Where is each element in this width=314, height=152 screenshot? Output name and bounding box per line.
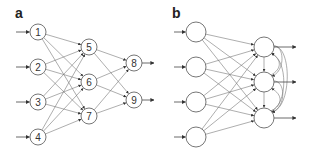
connection-arrow xyxy=(46,104,81,114)
connection-arrow xyxy=(46,34,81,44)
connection-arrow xyxy=(43,88,83,131)
connection-arrow xyxy=(206,121,254,134)
connection-arrow xyxy=(206,34,254,45)
node-9: 9 xyxy=(126,92,142,108)
node-label: 6 xyxy=(86,77,92,88)
node-i4 xyxy=(186,127,206,147)
connection-arrow xyxy=(204,54,256,96)
node-label: 7 xyxy=(86,111,92,122)
node-label: 8 xyxy=(131,58,137,69)
connection-arrow xyxy=(42,54,85,130)
panel-a-label: a xyxy=(15,5,23,21)
connection-arrow xyxy=(45,119,81,134)
node-3: 3 xyxy=(30,94,46,110)
panel-b-recurrent xyxy=(174,22,296,147)
connection-arrow xyxy=(97,103,126,113)
node-4: 4 xyxy=(30,129,46,145)
connection-arrow xyxy=(43,53,83,96)
node-6: 6 xyxy=(81,74,97,90)
panel-a-feedforward: 123456789 xyxy=(16,24,154,145)
node-1: 1 xyxy=(30,24,46,40)
node-i3 xyxy=(186,92,206,112)
node-i2 xyxy=(186,57,206,77)
node-label: 3 xyxy=(35,97,41,108)
connection-arrow xyxy=(42,39,84,109)
connection-arrow xyxy=(202,55,258,129)
connection-arrow xyxy=(204,89,256,131)
connection-arrow xyxy=(96,66,126,79)
panel-b-label: b xyxy=(172,5,181,21)
node-5: 5 xyxy=(81,39,97,55)
node-label: 4 xyxy=(35,132,41,143)
neural-network-diagram: a b 123456789 xyxy=(0,0,314,152)
node-i1 xyxy=(186,22,206,42)
node-label: 5 xyxy=(86,42,92,53)
node-o3 xyxy=(254,108,274,128)
connection-arrow xyxy=(206,50,254,64)
node-label: 2 xyxy=(35,62,41,73)
node-o2 xyxy=(254,72,274,92)
connection-arrow xyxy=(97,50,126,60)
connection-arrow xyxy=(45,50,81,64)
node-o1 xyxy=(254,37,274,57)
node-8: 8 xyxy=(126,55,142,71)
node-2: 2 xyxy=(30,59,46,75)
node-label: 9 xyxy=(131,95,137,106)
connection-arrow xyxy=(96,85,126,97)
node-label: 1 xyxy=(35,27,41,38)
node-7: 7 xyxy=(81,108,97,124)
